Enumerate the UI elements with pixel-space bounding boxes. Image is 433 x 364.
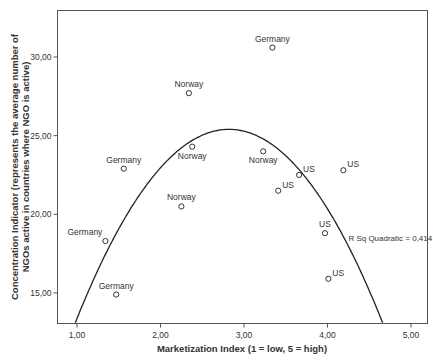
data-point-label: US xyxy=(303,164,315,174)
data-point-marker xyxy=(121,166,126,171)
data-point-marker xyxy=(261,149,266,154)
data-point-marker xyxy=(103,238,108,243)
data-point-marker xyxy=(270,45,275,50)
y-tick-label: 25,00 xyxy=(30,131,52,141)
x-tick-label: 3,00 xyxy=(236,330,253,340)
data-point-marker xyxy=(276,188,281,193)
y-axis-ticks: 15,0020,0025,0030,00 xyxy=(30,52,57,298)
data-point-marker xyxy=(322,231,327,236)
x-tick-label: 2,00 xyxy=(152,330,169,340)
data-point-label: US xyxy=(347,159,359,169)
data-point-marker xyxy=(190,144,195,149)
data-point-marker xyxy=(326,276,331,281)
x-tick-label: 4,00 xyxy=(319,330,336,340)
data-point-label: US xyxy=(332,268,344,278)
data-point-label: US xyxy=(282,180,294,190)
data-point-label: Norway xyxy=(249,155,279,165)
scatter-chart: 15,0020,0025,0030,00 1,002,003,004,005,0… xyxy=(0,0,433,364)
y-tick-label: 15,00 xyxy=(30,288,52,298)
data-point-marker xyxy=(341,168,346,173)
x-axis-ticks: 1,002,003,004,005,00 xyxy=(69,324,420,340)
data-point-label: Germany xyxy=(255,34,291,44)
plot-frame xyxy=(58,11,428,324)
x-tick-label: 5,00 xyxy=(403,330,420,340)
data-point-label: US xyxy=(319,219,331,229)
y-axis-label-line2: NGOs active in countries where NGO is ac… xyxy=(20,62,31,273)
data-point-marker xyxy=(297,172,302,177)
data-points: GermanyNorwayNorwayNorwayGermanyUSUSUSNo… xyxy=(67,34,359,298)
y-tick-label: 30,00 xyxy=(30,52,52,62)
data-point-marker xyxy=(179,204,184,209)
x-tick-label: 1,00 xyxy=(69,330,86,340)
r-squared-annotation: R Sq Quadratic = 0,414 xyxy=(348,234,432,243)
x-axis-label: Marketization Index (1 = low, 5 = high) xyxy=(157,343,327,354)
data-point-label: Norway xyxy=(174,79,204,89)
data-point-marker xyxy=(186,91,191,96)
y-axis-label-line1: Concentration Indicator (represents the … xyxy=(9,33,20,300)
y-tick-label: 20,00 xyxy=(30,209,52,219)
data-point-marker xyxy=(114,292,119,297)
data-point-label: Norway xyxy=(178,151,208,161)
data-point-label: Germany xyxy=(99,281,135,291)
data-point-label: Norway xyxy=(167,192,197,202)
data-point-label: Germany xyxy=(67,227,103,237)
data-point-label: Germany xyxy=(106,155,142,165)
